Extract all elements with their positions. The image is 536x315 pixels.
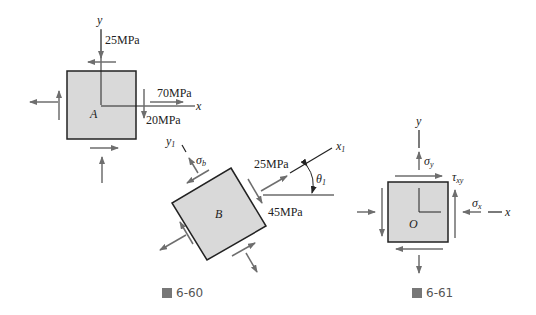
element-a-right-shear-label: 20MPa [146,113,181,127]
element-b-sigma-b-label: σb [196,153,206,168]
element-b-bottom-shear-arrow [232,243,255,256]
figure-6-61-caption: 6-61 [412,286,453,300]
element-a-x-label: x [195,99,202,113]
element-b-label: B [215,207,223,221]
element-a-top-stress-label: 25MPa [105,33,140,47]
element-a-label: A [89,107,98,121]
stress-diagrams: y 25MPa 70MPa x 20MPa A y1 σb 25 [0,0,536,315]
element-b-theta-arc [307,166,313,193]
element-b-x1-axis [290,148,332,173]
element-b-x1-label: x1 [335,139,345,154]
element-b-y1-label: y1 [165,134,175,149]
figure-6-60-number: 6-60 [176,286,203,300]
element-o-y-label: y [415,114,422,128]
element-a: y 25MPa 70MPa x 20MPa A [30,13,202,183]
element-b-normal-label: 25MPa [254,157,289,171]
element-b: y1 σb 25MPa x1 θ1 45MPa B [160,134,345,272]
element-o-x-label: x [504,205,511,219]
element-b-shear-label: 45MPa [268,205,303,219]
figure-6-61-number: 6-61 [426,286,453,300]
element-b-theta-label: θ1 [316,172,326,187]
element-b-left-normal-arrow [160,235,186,250]
figure-glyph-icon [162,288,172,298]
element-a-y-label: y [96,13,103,27]
element-o-sigma-x-label: σx [472,196,482,211]
element-o-sigma-y-label: σy [424,154,434,169]
element-o-tau-label: τxy [452,170,464,185]
element-b-bottom-normal-arrow [246,253,257,272]
element-a-right-normal-label: 70MPa [157,86,192,100]
element-o-label: O [409,217,418,231]
figure-6-60-caption: 6-60 [162,286,203,300]
element-o: y σy τxy σx x O [357,114,511,273]
element-b-normal-arrow [261,176,287,191]
figure-glyph-icon [412,288,422,298]
element-b-y1-axis [182,145,186,152]
